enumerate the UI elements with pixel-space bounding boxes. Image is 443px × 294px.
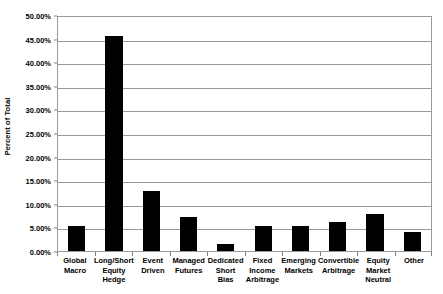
y-axis-tick-label: 50.00% (26, 12, 51, 21)
y-axis-tick-label: 35.00% (26, 82, 51, 91)
bar (292, 226, 309, 251)
bar (105, 36, 122, 251)
y-axis-tick-label: 5.00% (30, 224, 51, 233)
bar-slot (394, 17, 431, 251)
x-axis-category-label: Dedicated Short Bias (207, 256, 245, 292)
bar-slot (170, 17, 207, 251)
bar-slot (207, 17, 244, 251)
bar (217, 244, 234, 251)
bar-slot (244, 17, 281, 251)
x-axis-category-label: Event Driven (135, 256, 171, 292)
bar (143, 191, 160, 251)
bar-slot (95, 17, 132, 251)
x-axis-category-label: Managed Futures (171, 256, 207, 292)
bar (404, 232, 421, 251)
bar-slot (356, 17, 393, 251)
y-axis-tick-label: 45.00% (26, 35, 51, 44)
bars-container (58, 17, 431, 251)
plot-area (57, 16, 432, 252)
y-axis-tick-label: 30.00% (26, 106, 51, 115)
y-axis-title-text: Percent of Total (4, 97, 13, 155)
x-axis-category-label: Global Macro (57, 256, 93, 292)
x-axis-category-label: Convertible Arbitrage (317, 256, 360, 292)
y-axis-tick-label: 40.00% (26, 59, 51, 68)
bar-slot (319, 17, 356, 251)
bar (68, 226, 85, 251)
bar-slot (282, 17, 319, 251)
y-axis-tick-label: 20.00% (26, 153, 51, 162)
y-axis-tick-label: 0.00% (30, 248, 51, 257)
y-axis-tick-labels: 50.00%45.00%40.00%35.00%30.00%25.00%20.0… (14, 16, 54, 252)
x-axis-category-label: Fixed Income Arbitrage (244, 256, 280, 292)
bar (255, 226, 272, 251)
bar-chart: Percent of Total 50.00%45.00%40.00%35.00… (0, 0, 443, 294)
x-axis-category-label: Long/Short Equity Hedge (93, 256, 135, 292)
x-axis-category-label: Equity Market Neutral (360, 256, 396, 292)
bar (366, 214, 383, 251)
x-axis-category-labels: Global MacroLong/Short Equity HedgeEvent… (57, 256, 432, 292)
y-axis-tick-label: 10.00% (26, 200, 51, 209)
y-axis-tick-label: 15.00% (26, 177, 51, 186)
bar-slot (58, 17, 95, 251)
bar (329, 222, 346, 251)
bar-slot (133, 17, 170, 251)
y-axis-tick-label: 25.00% (26, 130, 51, 139)
bar (180, 217, 197, 251)
x-axis-category-label: Other (396, 256, 432, 292)
x-axis-category-label: Emerging Markets (280, 256, 317, 292)
